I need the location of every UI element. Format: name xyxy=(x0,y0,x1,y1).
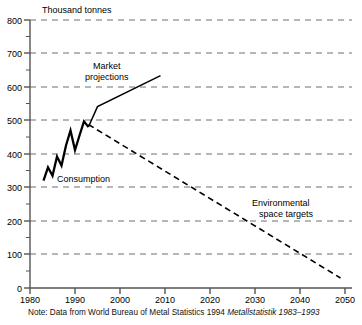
annotation-environmental-space-targets: Environmental space targets xyxy=(252,198,314,219)
x-tick-label-2030: 2030 xyxy=(245,295,265,305)
y-tick-label-600: 600 xyxy=(7,83,22,93)
source-note-italic: Metallstatistik 1983–1993 xyxy=(227,308,319,317)
chart-figure: 800 700 600 500 400 300 200 100 0 1980 1… xyxy=(0,0,362,325)
y-tick-label-500: 500 xyxy=(7,116,22,126)
y-tick-label-300: 300 xyxy=(7,183,22,193)
y-axis-caption: Thousand tonnes xyxy=(42,5,112,15)
y-tick-label-0: 0 xyxy=(17,284,22,294)
consumption-label: Consumption xyxy=(57,174,110,184)
series-market-projections xyxy=(89,76,161,127)
environmental-space-targets-label-line2: space targets xyxy=(259,209,314,219)
x-tick-label-2040: 2040 xyxy=(290,295,310,305)
y-tick-label-800: 800 xyxy=(7,16,22,26)
y-axis-major-ticks xyxy=(24,20,30,288)
y-tick-label-700: 700 xyxy=(7,49,22,59)
source-note-prefix: Note: Data from World Bureau of Metal St… xyxy=(28,308,227,317)
market-projections-label-line2: projections xyxy=(85,72,129,82)
x-tick-labels: 1980 1990 2000 2010 2020 2030 2040 2050 xyxy=(20,295,355,305)
x-tick-label-2020: 2020 xyxy=(200,295,220,305)
x-axis-ticks xyxy=(30,288,345,294)
market-projections-label-line1: Market xyxy=(93,61,121,71)
x-tick-label-1980: 1980 xyxy=(20,295,40,305)
source-note: Note: Data from World Bureau of Metal St… xyxy=(28,308,320,318)
x-tick-label-1990: 1990 xyxy=(65,295,85,305)
environmental-space-targets-label-line1: Environmental xyxy=(252,198,310,208)
x-tick-label-2050: 2050 xyxy=(335,295,355,305)
x-tick-label-2010: 2010 xyxy=(155,295,175,305)
annotation-market-projections: Market projections xyxy=(85,61,129,82)
y-tick-label-400: 400 xyxy=(7,150,22,160)
y-tick-label-200: 200 xyxy=(7,217,22,227)
y-tick-labels: 800 700 600 500 400 300 200 100 0 xyxy=(7,16,22,294)
series-consumption xyxy=(44,121,89,180)
y-tick-label-100: 100 xyxy=(7,250,22,260)
chart-svg: 800 700 600 500 400 300 200 100 0 1980 1… xyxy=(0,0,362,325)
x-tick-label-2000: 2000 xyxy=(110,295,130,305)
